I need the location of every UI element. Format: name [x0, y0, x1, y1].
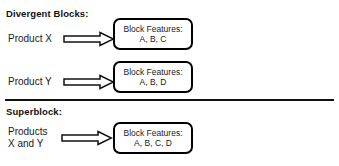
feature-box-features: A, B, C: [140, 34, 167, 45]
feature-box-features: A, B, D: [140, 77, 167, 88]
source-label-product-x: Product X: [8, 33, 52, 45]
source-label-product-y: Product Y: [8, 76, 52, 88]
section-heading-superblock: Superblock:: [6, 106, 62, 117]
right-block-arrow-icon: [63, 31, 115, 47]
section-heading-divergent-blocks: Divergent Blocks:: [6, 8, 88, 19]
source-label-line-1: Products: [8, 126, 47, 137]
source-label-products-x-and-y: Products X and Y: [8, 126, 47, 149]
feature-box-title: Block Features:: [123, 128, 182, 138]
right-block-arrow-icon: [63, 74, 115, 90]
feature-box-superblock: Block Features: A, B, C, D: [113, 122, 193, 154]
feature-box-title: Block Features:: [123, 24, 182, 34]
right-block-arrow-icon: [61, 130, 113, 146]
feature-box-product-x: Block Features: A, B, C: [113, 18, 193, 50]
section-divider: [5, 99, 334, 101]
feature-box-features: A, B, C, D: [134, 138, 172, 149]
feature-box-product-y: Block Features: A, B, D: [113, 61, 193, 93]
feature-box-title: Block Features:: [123, 67, 182, 77]
source-label-line-2: X and Y: [8, 138, 47, 150]
block-diagram: Divergent Blocks: Product X Block Featur…: [0, 0, 339, 166]
